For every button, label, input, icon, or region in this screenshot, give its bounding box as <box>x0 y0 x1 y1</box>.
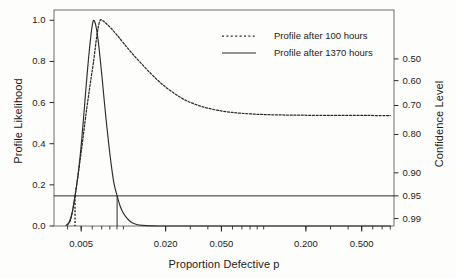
y-left-tick-label-3: 0.6 <box>16 97 46 108</box>
y-left-tick-label-4: 0.8 <box>16 55 46 66</box>
legend-label-2: Profile after 1370 hours <box>274 47 373 58</box>
y-left-tick-label-5: 1.0 <box>16 14 46 25</box>
y-left-tick-label-0: 0.0 <box>16 220 46 231</box>
legend-label-1: Profile after 100 hours <box>274 30 367 41</box>
x-axis-ticks <box>68 226 391 232</box>
y-axis-left-title: Profile Likelihood <box>12 46 24 196</box>
x-tick-label-4: 0.500 <box>340 238 384 249</box>
x-tick-label-0: 0.005 <box>59 238 103 249</box>
y-right-tick-label-0: 0.50 <box>403 53 437 64</box>
x-tick-label-3: 0.200 <box>284 238 328 249</box>
y-right-tick-label-4: 0.90 <box>403 167 437 178</box>
confidence-bound-droplines <box>75 196 117 226</box>
legend-swatches <box>222 36 256 53</box>
y-axis-right-ticks <box>394 59 399 219</box>
y-left-tick-label-2: 0.4 <box>16 138 46 149</box>
x-tick-label-1: 0.020 <box>144 238 188 249</box>
x-axis-title: Proportion Defective p <box>54 258 394 270</box>
y-right-tick-label-6: 0.99 <box>403 213 437 224</box>
y-left-tick-label-1: 0.2 <box>16 179 46 190</box>
plot-frame <box>54 10 394 226</box>
y-axis-left-ticks <box>50 20 55 226</box>
chart-canvas <box>0 0 456 278</box>
y-right-tick-label-1: 0.60 <box>403 75 437 86</box>
x-tick-label-2: 0.050 <box>199 238 243 249</box>
y-right-tick-label-3: 0.80 <box>403 128 437 139</box>
y-right-tick-label-2: 0.70 <box>403 99 437 110</box>
profile-likelihood-chart: Profile Likelihood Confidence Level Prop… <box>0 0 456 278</box>
y-right-tick-label-5: 0.95 <box>403 190 437 201</box>
